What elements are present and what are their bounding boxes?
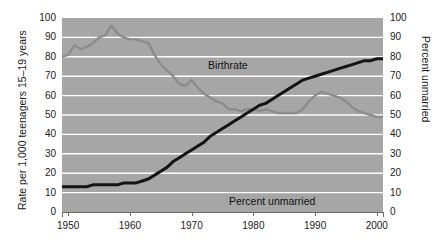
x-axis-spine (62, 212, 383, 213)
y-axis-right-tick-label: 40 (390, 129, 414, 139)
x-axis-tick-label: 1960 (119, 220, 141, 231)
x-axis-tick-label: 1990 (304, 220, 326, 231)
series-line-percent-unmarried (62, 59, 383, 187)
y-axis-right-tick-label: 50 (390, 110, 414, 120)
y-axis-right-ticks: 0102030405060708090100 (390, 0, 416, 252)
y-axis-left-ticks: 0102030405060708090100 (32, 0, 56, 252)
x-axis-tick-label: 1980 (242, 220, 264, 231)
x-axis-tick-label: 1970 (181, 220, 203, 231)
y-axis-left-tick-label: 70 (32, 71, 56, 81)
x-axis-tick-label: 2000 (366, 220, 388, 231)
series-label-birthrate: Birthrate (208, 59, 248, 71)
series-lines (62, 26, 383, 187)
y-axis-right-tick-label: 80 (390, 52, 414, 62)
x-axis-tick-label: 1950 (57, 220, 79, 231)
series-label-percent-unmarried: Percent unmarried (229, 195, 315, 207)
y-axis-left-tick-label: 30 (32, 149, 56, 159)
y-axis-left-tick-label: 40 (32, 129, 56, 139)
y-axis-right-tick-label: 70 (390, 71, 414, 81)
y-axis-left-tick-label: 10 (32, 188, 56, 198)
y-axis-left-tick-label: 20 (32, 168, 56, 178)
y-axis-left-spine-foot (62, 212, 63, 217)
y-axis-right-tick-label: 100 (390, 13, 414, 23)
plot-area: Birthrate Percent unmarried (62, 18, 383, 212)
y-axis-right-tick-label: 30 (390, 149, 414, 159)
chart-figure: 0102030405060708090100 01020304050607080… (0, 0, 446, 252)
y-axis-left-title: Rate per 1,000 teenagers 15–19 years (16, 30, 28, 210)
y-axis-right-spine-foot (383, 212, 384, 217)
y-axis-right-tick-label: 10 (390, 188, 414, 198)
y-axis-left-tick-label: 100 (32, 13, 56, 23)
y-axis-left-tick-label: 60 (32, 91, 56, 101)
y-axis-left-tick-label: 90 (32, 32, 56, 42)
x-axis-ticks: 195019601970198019902000 (0, 216, 446, 232)
plot-canvas (62, 18, 383, 212)
y-axis-left-tick-label: 50 (32, 110, 56, 120)
y-axis-right-tick-label: 60 (390, 91, 414, 101)
y-axis-right-tick-label: 20 (390, 168, 414, 178)
y-axis-left-tick-label: 80 (32, 52, 56, 62)
gridlines (62, 18, 383, 193)
y-axis-right-tick-label: 90 (390, 32, 414, 42)
y-axis-right-title: Percent unmarried (420, 36, 432, 122)
